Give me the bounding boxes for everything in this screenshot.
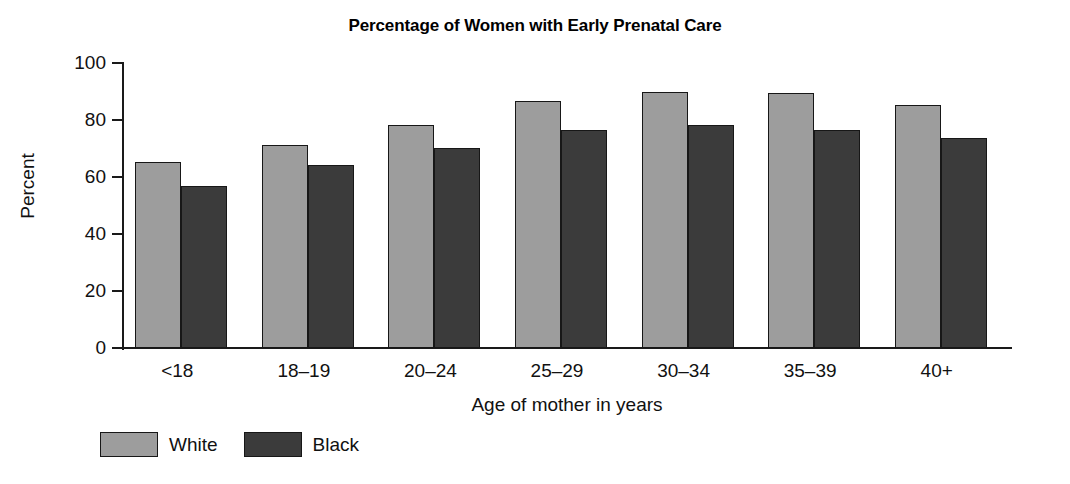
x-axis-tick-label: 25–29 bbox=[494, 360, 621, 382]
y-axis-tick-label-text: 60 bbox=[52, 167, 106, 186]
y-axis-tick-label: 80 bbox=[46, 110, 106, 130]
y-axis-tick-label-text: 20 bbox=[52, 281, 106, 300]
x-axis-tick-label: 20–24 bbox=[367, 360, 494, 382]
legend-swatch-white bbox=[100, 432, 158, 457]
y-axis-tick bbox=[112, 347, 123, 349]
bar-white-5 bbox=[768, 93, 814, 348]
y-axis-tick bbox=[112, 62, 123, 64]
bar-black-1 bbox=[308, 165, 354, 348]
y-axis-tick bbox=[112, 290, 123, 292]
y-axis-line bbox=[122, 62, 124, 350]
x-axis-tick-label: <18 bbox=[114, 360, 241, 382]
legend-item-black: Black bbox=[244, 432, 359, 457]
x-axis-tick-label: 35–39 bbox=[747, 360, 874, 382]
bar-white-0 bbox=[135, 162, 181, 348]
x-axis-tick-label: 40+ bbox=[873, 360, 1000, 382]
bar-white-6 bbox=[895, 105, 941, 348]
bar-black-0 bbox=[181, 186, 227, 348]
bar-black-2 bbox=[434, 148, 480, 348]
y-axis-tick bbox=[112, 119, 123, 121]
y-axis-tick-label-text: 0 bbox=[52, 338, 106, 357]
chart-legend: WhiteBlack bbox=[100, 432, 359, 457]
y-axis-tick-label: 60 bbox=[46, 167, 106, 187]
y-axis-tick-label-text: 40 bbox=[52, 224, 106, 243]
legend-item-white: White bbox=[100, 432, 218, 457]
legend-label-black: Black bbox=[313, 434, 359, 456]
x-axis-tick-label: 18–19 bbox=[241, 360, 368, 382]
y-axis-tick-label: 100 bbox=[46, 53, 106, 73]
legend-swatch-black bbox=[244, 432, 302, 457]
y-axis-tick-label-text: 80 bbox=[52, 110, 106, 129]
bar-white-4 bbox=[642, 92, 688, 348]
y-axis-tick-label-text: 100 bbox=[52, 53, 106, 72]
y-axis-tick bbox=[112, 176, 123, 178]
y-axis-title: Percent bbox=[17, 96, 39, 276]
prenatal-care-bar-chart: Percentage of Women with Early Prenatal … bbox=[0, 0, 1070, 484]
bar-white-3 bbox=[515, 101, 561, 348]
bar-black-6 bbox=[941, 138, 987, 348]
chart-title: Percentage of Women with Early Prenatal … bbox=[0, 16, 1070, 36]
y-axis-tick bbox=[112, 233, 123, 235]
x-axis-title: Age of mother in years bbox=[124, 394, 1010, 416]
y-axis-tick-label: 20 bbox=[46, 281, 106, 301]
bar-white-1 bbox=[262, 145, 308, 348]
bar-black-3 bbox=[561, 130, 607, 348]
bar-black-5 bbox=[814, 130, 860, 348]
bar-white-2 bbox=[388, 125, 434, 348]
y-axis-tick-label: 40 bbox=[46, 224, 106, 244]
bar-black-4 bbox=[688, 125, 734, 348]
legend-label-white: White bbox=[169, 434, 218, 456]
y-axis-tick-label: 0 bbox=[46, 338, 106, 358]
x-axis-tick-label: 30–34 bbox=[620, 360, 747, 382]
